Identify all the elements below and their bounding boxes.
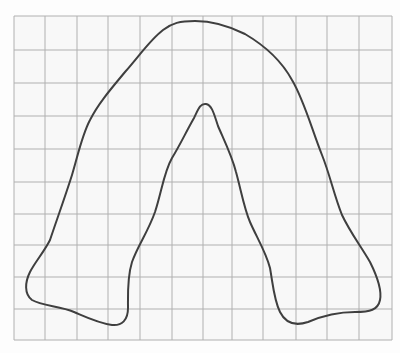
arch-outline-drawing <box>0 0 400 353</box>
grid-paper-figure <box>0 0 400 353</box>
